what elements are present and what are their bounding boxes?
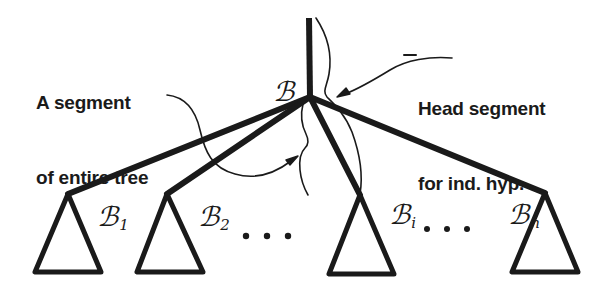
- node-label-root-subscript: [294, 91, 295, 109]
- node-label-childi: ℬi: [369, 180, 416, 251]
- node-label-child1-base: ℬ: [97, 201, 118, 232]
- node-label-root: ℬ: [253, 57, 295, 128]
- right-label-arrowhead: [337, 88, 350, 97]
- node-label-childn: ℬn: [488, 180, 540, 251]
- node-label-childi-subscript: i: [410, 214, 416, 232]
- root-edge: [309, 18, 310, 97]
- ellipsis-between-child2-and-childi: [243, 233, 291, 239]
- node-label-child2-subscript: 2: [219, 216, 230, 234]
- annotation-right-line1: Head segment: [418, 96, 545, 121]
- annotation-left-line1: A segment: [36, 90, 148, 115]
- node-label-child2-base: ℬ: [198, 201, 219, 232]
- node-label-childn-subscript: n: [529, 214, 540, 232]
- node-label-childn-base: ℬ: [508, 199, 529, 230]
- node-label-child1-subscript: 1: [118, 216, 129, 234]
- node-label-child2: ℬ2: [178, 182, 230, 253]
- node-label-childi-base: ℬ: [389, 199, 410, 230]
- node-label-child1: ℬ1: [77, 182, 129, 253]
- segment-brace-outline: [300, 104, 308, 195]
- tree-diagram-figure: A segment of entire tree Head segment fo…: [0, 0, 610, 296]
- node-label-root-base: ℬ: [273, 76, 294, 107]
